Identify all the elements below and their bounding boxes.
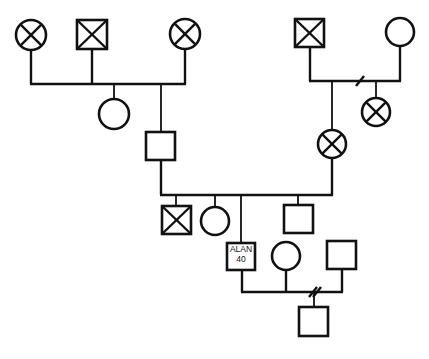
person-p3-deceased-female — [170, 19, 200, 49]
person-p11-female — [201, 207, 229, 235]
alan-age-label: 40 — [236, 254, 246, 264]
genogram-diagram: ALAN 40 — [0, 0, 429, 359]
person-p9-deceased-female — [318, 130, 346, 158]
person-alan-proband: ALAN 40 — [227, 243, 255, 270]
person-p10-deceased-male — [162, 206, 191, 234]
person-p12-male — [284, 205, 313, 233]
person-p1-deceased-female — [16, 20, 46, 50]
person-p14-female — [272, 242, 300, 270]
alan-name-label: ALAN — [230, 244, 252, 254]
person-p6-deceased-male — [295, 19, 324, 47]
person-p2-deceased-male — [77, 20, 107, 49]
person-p8-deceased-female — [362, 98, 390, 126]
person-p4-female — [99, 99, 129, 129]
person-p5-male — [146, 132, 175, 160]
person-p15-male — [327, 241, 356, 269]
person-p16-male-child — [299, 307, 328, 336]
alan-relationship-lines — [241, 269, 343, 307]
person-p7-female — [386, 18, 414, 46]
